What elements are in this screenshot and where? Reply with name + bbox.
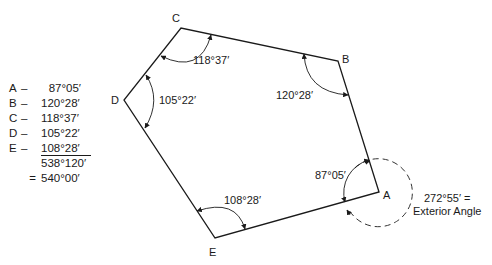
vertex-label-b: B [342, 53, 349, 65]
polygon-diagram: C B D E A 118°37′ 105°22′ 120°28′ 108°28… [0, 0, 492, 265]
exterior-angle-value: 272°55′ = [424, 192, 471, 204]
exterior-arrow-bottom [347, 210, 350, 215]
angle-label-a: 87°05′ [315, 169, 346, 181]
angle-arc-e [197, 207, 245, 229]
exterior-angle-caption: Exterior Angle [413, 205, 481, 217]
angle-label-e: 108°28′ [224, 194, 261, 206]
exterior-angle-circle [348, 159, 412, 227]
angle-label-d: 105°22′ [159, 94, 196, 106]
angle-arc-d [145, 75, 154, 128]
pentagon-outline [124, 28, 379, 238]
angle-label-c: 118°37′ [193, 54, 229, 66]
vertex-label-e: E [209, 246, 216, 258]
angle-label-b: 120°28′ [276, 89, 313, 101]
vertex-label-c: C [172, 12, 180, 24]
vertex-label-a: A [383, 189, 391, 201]
vertex-label-d: D [111, 94, 119, 106]
